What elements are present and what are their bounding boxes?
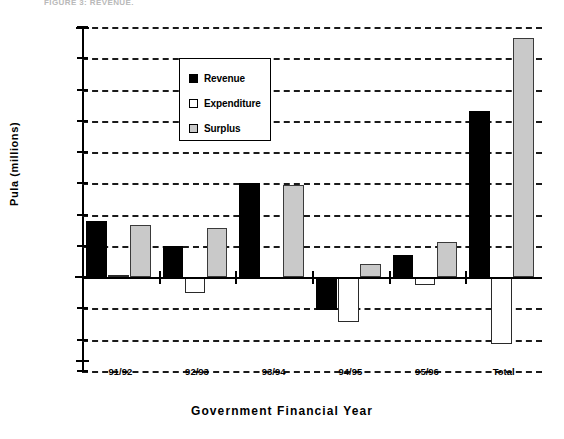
bar-revenue-93-94 <box>239 183 260 277</box>
legend-item-expenditure: Expenditure <box>189 91 270 116</box>
white-square-icon <box>189 99 198 108</box>
x-axis-tick-label: Total <box>493 366 515 377</box>
cutoff-header-text: FIGURE 3: REVENUE, <box>44 0 134 5</box>
bar-surplus-92-93 <box>207 228 228 277</box>
bar-surplus-93-94 <box>283 185 304 277</box>
y-axis-tick <box>77 89 88 91</box>
x-axis-tick-label: 93/94 <box>262 366 286 377</box>
category-separator <box>312 271 314 284</box>
bar-revenue-91-92 <box>86 221 107 277</box>
legend-item-revenue: Revenue <box>189 66 270 91</box>
gridline <box>82 371 542 373</box>
y-axis-tick <box>77 120 88 122</box>
bar-revenue-92-93 <box>163 246 184 277</box>
bar-revenue-95-96 <box>393 255 414 277</box>
y-axis-line <box>82 27 84 371</box>
bar-expenditure-92-93 <box>185 277 206 293</box>
x-axis-tick-label: 92/93 <box>185 366 209 377</box>
y-axis-tick <box>77 339 88 341</box>
gray-square-icon <box>189 124 198 133</box>
category-separator <box>159 271 161 284</box>
bar-surplus-95-96 <box>437 242 458 278</box>
black-square-icon <box>189 74 198 83</box>
x-axis-tick-label: 94/95 <box>338 366 362 377</box>
gridline <box>82 58 542 60</box>
chart-legend: Revenue Expenditure Surplus <box>179 58 271 141</box>
y-axis-tick <box>77 182 88 184</box>
y-axis-tick <box>77 307 88 309</box>
legend-item-surplus: Surplus <box>189 116 270 141</box>
y-axis-tick <box>77 57 88 59</box>
bar-expenditure-Total <box>491 277 512 344</box>
category-separator <box>235 271 237 284</box>
x-axis-title: Government Financial Year <box>0 404 564 418</box>
legend-label: Expenditure <box>204 98 261 109</box>
bar-revenue-Total <box>469 111 490 277</box>
bar-surplus-94-95 <box>360 264 381 277</box>
plot-area: Revenue Expenditure Surplus <box>82 27 542 371</box>
x-axis-tick-label: 91/92 <box>108 366 132 377</box>
y-axis-tick <box>77 370 88 372</box>
axis-endcap <box>76 360 89 362</box>
y-axis-title: Pula (millions) <box>8 122 20 206</box>
y-axis-tick <box>77 214 88 216</box>
bar-surplus-91-92 <box>130 225 151 278</box>
bar-surplus-Total <box>513 38 534 278</box>
category-separator <box>465 271 467 284</box>
gridline <box>82 308 542 310</box>
bar-expenditure-94-95 <box>338 277 359 322</box>
gridline <box>82 27 542 29</box>
gridline <box>82 90 542 92</box>
y-axis-tick <box>77 151 88 153</box>
chart-figure: FIGURE 3: REVENUE, Pula (millions) Reven… <box>0 0 564 439</box>
legend-label: Revenue <box>204 73 245 84</box>
axis-endcap <box>76 27 89 29</box>
legend-label: Surplus <box>204 123 241 134</box>
gridline <box>82 340 542 342</box>
category-separator <box>389 271 391 284</box>
x-axis-tick-label: 95/96 <box>415 366 439 377</box>
bar-revenue-94-95 <box>316 277 337 310</box>
